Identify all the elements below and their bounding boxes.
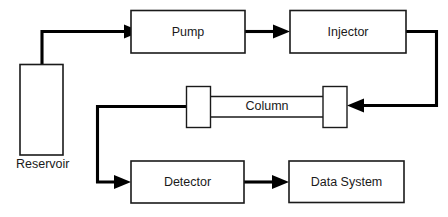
arrowhead-injector-to-column <box>347 99 364 113</box>
flow-diagram-canvas: Reservoir Pump Injector Column Detector … <box>0 0 448 217</box>
column-right-endcap <box>323 87 347 128</box>
column-left-endcap <box>187 87 211 128</box>
node-data-system-label: Data System <box>311 175 383 189</box>
node-reservoir-label: Reservoir <box>16 157 70 171</box>
hplc-flow-diagram: Reservoir Pump Injector Column Detector … <box>0 0 448 217</box>
node-pump-label: Pump <box>172 25 205 39</box>
node-reservoir <box>20 65 63 156</box>
node-column-label: Column <box>245 99 288 113</box>
arrowhead-detector-to-data-system <box>272 175 289 189</box>
node-detector-label: Detector <box>164 175 211 189</box>
arrowhead-column-to-detector <box>114 175 131 189</box>
connector-reservoir-to-pump <box>42 32 124 67</box>
arrowhead-pump-to-injector <box>273 25 290 39</box>
node-injector-label: Injector <box>328 25 369 39</box>
